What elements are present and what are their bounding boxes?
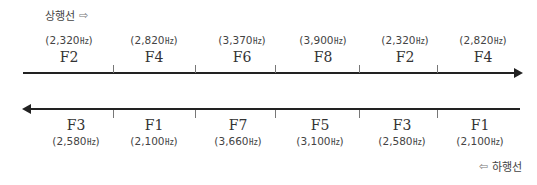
downbound-tick (195, 110, 196, 118)
upbound-cell: (2,820㎐) F4 (114, 33, 194, 66)
frequency-label: (2,580㎐) (36, 134, 116, 149)
frequency-label: (2,320㎐) (29, 33, 109, 48)
upbound-tick (195, 65, 196, 73)
frequency-label: (3,100㎐) (280, 134, 360, 149)
frequency-label: (2,320㎐) (365, 33, 445, 48)
upbound-tick (359, 65, 360, 73)
channel-name: F1 (440, 116, 520, 134)
channel-name: F4 (114, 48, 194, 66)
left-arrow-icon: ⇦ (479, 160, 488, 173)
frequency-label: (2,100㎐) (440, 134, 520, 149)
downbound-track-line (25, 108, 520, 110)
right-arrow-icon: ⇨ (79, 9, 88, 22)
downbound-direction-label: ⇦ 하행선 (479, 158, 522, 174)
upbound-tick (437, 65, 438, 73)
downbound-cell: F1 (2,100㎐) (114, 116, 194, 149)
upbound-tick (275, 65, 276, 73)
downbound-cell: F7 (3,660㎐) (198, 116, 278, 149)
frequency-label: (2,820㎐) (114, 33, 194, 48)
channel-name: F1 (114, 116, 194, 134)
upbound-cell: (2,320㎐) F2 (365, 33, 445, 66)
channel-name: F3 (362, 116, 442, 134)
channel-name: F5 (280, 116, 360, 134)
upbound-cell: (3,370㎐) F6 (202, 33, 282, 66)
upbound-tick (113, 65, 114, 73)
upbound-cell: (2,820㎐) F4 (443, 33, 523, 66)
frequency-label: (3,900㎐) (283, 33, 363, 48)
downbound-label-text: 하행선 (492, 158, 522, 174)
upbound-track-line (23, 72, 518, 74)
channel-name: F3 (36, 116, 116, 134)
frequency-label: (2,820㎐) (443, 33, 523, 48)
right-arrowhead-icon (514, 68, 523, 78)
channel-name: F2 (29, 48, 109, 66)
downbound-cell: F3 (2,580㎐) (362, 116, 442, 149)
upbound-cell: (2,320㎐) F2 (29, 33, 109, 66)
channel-name: F2 (365, 48, 445, 66)
frequency-label: (3,660㎐) (198, 134, 278, 149)
downbound-cell: F3 (2,580㎐) (36, 116, 116, 149)
channel-name: F6 (202, 48, 282, 66)
channel-name: F8 (283, 48, 363, 66)
channel-name: F4 (443, 48, 523, 66)
downbound-cell: F1 (2,100㎐) (440, 116, 520, 149)
frequency-label: (3,370㎐) (202, 33, 282, 48)
downbound-cell: F5 (3,100㎐) (280, 116, 360, 149)
upbound-direction-label: 상행선 ⇨ (45, 7, 88, 23)
channel-name: F7 (198, 116, 278, 134)
frequency-label: (2,580㎐) (362, 134, 442, 149)
upbound-cell: (3,900㎐) F8 (283, 33, 363, 66)
frequency-label: (2,100㎐) (114, 134, 194, 149)
left-arrowhead-icon (22, 104, 31, 114)
upbound-label-text: 상행선 (45, 7, 75, 23)
